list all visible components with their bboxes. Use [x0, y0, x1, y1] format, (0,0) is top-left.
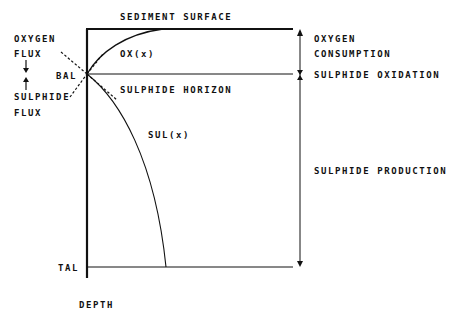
sulphide-horizon-label: SULPHIDE HORIZON — [120, 85, 232, 95]
oxygen-consumption-top-arrowhead — [297, 29, 303, 36]
sulphide-flux-tangent-ext — [87, 74, 117, 100]
sulphide-flux-label-line1: SULPHIDE — [14, 92, 70, 102]
sulphide-production-bottom-arrowhead — [297, 261, 303, 267]
oxygen-consumption-label-line1: OXYGEN — [314, 34, 356, 44]
sulphide-production-label: SULPHIDE PRODUCTION — [314, 166, 447, 176]
depth-axis-label: DEPTH — [79, 300, 114, 310]
sulphide-flux-arrowhead — [23, 77, 29, 82]
oxygen-flux-label-line2: FLUX — [14, 49, 42, 59]
sediment-surface-label: SEDIMENT SURFACE — [120, 12, 232, 22]
sulphide-oxidation-label: SULPHIDE OXIDATION — [314, 70, 440, 80]
tal-label: TAL — [58, 263, 79, 273]
oxygen-consumption-bottom-arrowhead — [297, 70, 303, 75]
sul-curve — [87, 74, 166, 267]
sulphide-flux-label-line2: FLUX — [14, 108, 42, 118]
oxygen-flux-arrowhead — [23, 68, 29, 73]
sul-curve-label: SUL(x) — [148, 130, 190, 140]
sulphide-production-top-arrowhead — [297, 75, 303, 80]
oxygen-consumption-label-line2: CONSUMPTION — [314, 49, 391, 59]
oxygen-flux-label-line1: OXYGEN — [14, 34, 56, 44]
ox-curve-label: OX(x) — [120, 49, 155, 59]
bal-label: BAL — [56, 71, 77, 81]
